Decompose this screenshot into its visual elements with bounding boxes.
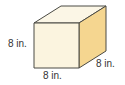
width-label: 8 in. [43, 71, 62, 81]
height-label: 8 in. [8, 39, 27, 49]
cube-front-face [34, 23, 79, 68]
depth-label: 8 in. [96, 59, 115, 69]
